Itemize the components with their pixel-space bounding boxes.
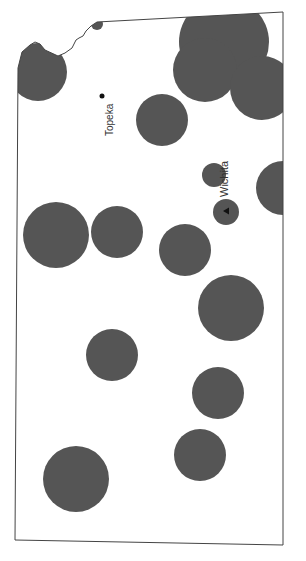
city-label-wichita: Wichita bbox=[218, 160, 230, 197]
proportional-circle bbox=[159, 224, 211, 276]
proportional-circle bbox=[91, 18, 103, 30]
proportional-circle bbox=[136, 94, 188, 146]
city-topeka: Topeka bbox=[100, 94, 116, 137]
proportional-circle bbox=[86, 329, 138, 381]
proportional-circle bbox=[174, 429, 226, 481]
circle-layer bbox=[9, 0, 306, 512]
proportional-circle bbox=[198, 275, 264, 341]
proportional-circle bbox=[91, 206, 143, 258]
proportional-circle bbox=[256, 161, 306, 215]
proportional-circle bbox=[173, 38, 237, 102]
proportional-circle bbox=[230, 56, 294, 120]
proportional-circle bbox=[192, 367, 244, 419]
proportional-circle bbox=[43, 446, 109, 512]
kansas-map: Topeka Wichita bbox=[0, 0, 306, 561]
city-dot-icon bbox=[100, 94, 105, 99]
city-label-topeka: Topeka bbox=[104, 103, 115, 136]
proportional-circle bbox=[23, 202, 89, 268]
